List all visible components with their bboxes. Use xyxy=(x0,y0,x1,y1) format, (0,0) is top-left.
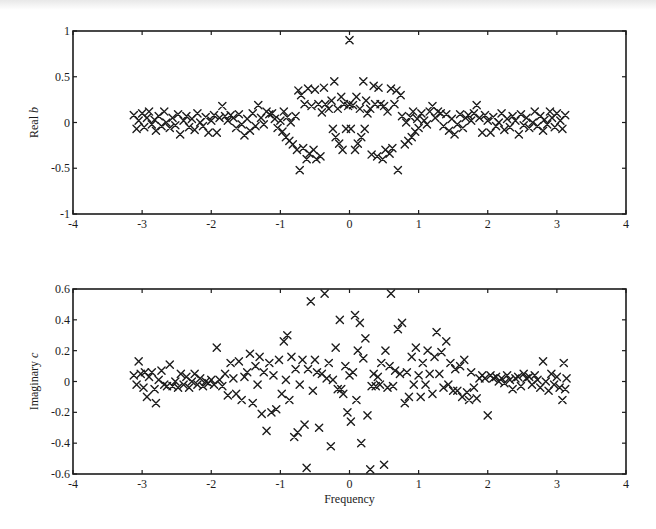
x-marker xyxy=(351,312,358,319)
x-marker xyxy=(289,141,296,148)
x-marker xyxy=(205,129,212,136)
x-marker xyxy=(426,370,433,377)
x-marker xyxy=(311,86,318,93)
x-marker xyxy=(423,121,430,128)
x-marker xyxy=(360,78,367,85)
x-marker xyxy=(135,358,142,365)
x-marker xyxy=(424,347,431,354)
x-marker xyxy=(277,117,284,124)
x-marker xyxy=(433,329,440,336)
y-axis-label: Imaginary c xyxy=(27,352,41,410)
x-tick-label: 4 xyxy=(623,477,629,491)
x-marker xyxy=(346,37,353,44)
x-marker xyxy=(559,396,566,403)
x-marker xyxy=(260,121,267,128)
x-marker xyxy=(304,85,311,92)
x-marker xyxy=(325,359,332,366)
x-marker xyxy=(397,91,404,98)
x-tick-label: 2 xyxy=(485,477,491,491)
x-marker xyxy=(484,412,491,419)
y-tick-label: -0.4 xyxy=(51,436,70,450)
x-marker xyxy=(143,114,150,121)
x-marker xyxy=(238,396,245,403)
x-marker xyxy=(310,146,317,153)
x-marker xyxy=(329,125,336,132)
x-marker xyxy=(353,93,360,100)
x-marker xyxy=(408,353,415,360)
x-tick-label: -2 xyxy=(206,477,216,491)
y-tick-label: -0.5 xyxy=(51,161,70,175)
x-marker xyxy=(447,359,454,366)
x-marker xyxy=(553,110,560,117)
x-marker xyxy=(320,84,327,91)
x-marker xyxy=(249,399,256,406)
x-marker xyxy=(454,387,461,394)
x-marker xyxy=(133,125,140,132)
x-marker xyxy=(318,109,325,116)
x-marker xyxy=(288,353,295,360)
x-marker xyxy=(422,381,429,388)
x-tick-label: 1 xyxy=(416,217,422,231)
x-marker xyxy=(309,387,316,394)
x-marker xyxy=(194,110,201,117)
x-marker xyxy=(495,119,502,126)
x-marker xyxy=(292,366,299,373)
x-marker xyxy=(315,101,322,108)
x-marker xyxy=(303,464,310,471)
x-marker xyxy=(419,359,426,366)
y-tick-label: 0 xyxy=(64,116,70,130)
x-marker xyxy=(436,370,443,377)
x-marker xyxy=(356,105,363,112)
x-marker xyxy=(394,166,401,173)
x-marker xyxy=(370,370,377,377)
x-marker xyxy=(415,124,422,131)
x-marker xyxy=(562,386,569,393)
x-marker xyxy=(133,381,140,388)
x-marker xyxy=(293,146,300,153)
x-marker xyxy=(479,129,486,136)
x-marker xyxy=(443,338,450,345)
x-marker xyxy=(473,102,480,109)
x-marker xyxy=(282,376,289,383)
x-marker xyxy=(344,409,351,416)
x-marker xyxy=(562,112,569,119)
x-tick-label: -1 xyxy=(275,217,285,231)
x-marker xyxy=(367,466,374,473)
x-marker xyxy=(331,78,338,85)
x-marker xyxy=(299,356,306,363)
x-marker xyxy=(539,358,546,365)
x-marker xyxy=(151,386,158,393)
x-marker xyxy=(560,359,567,366)
x-marker xyxy=(304,366,311,373)
data-markers xyxy=(130,37,569,174)
x-marker xyxy=(351,146,358,153)
x-marker xyxy=(378,359,385,366)
x-marker xyxy=(278,390,285,397)
x-marker xyxy=(362,335,369,342)
x-marker xyxy=(334,105,341,112)
x-marker xyxy=(473,395,480,402)
x-marker xyxy=(364,412,371,419)
x-marker xyxy=(347,418,354,425)
y-axis-label: Real b xyxy=(27,107,41,138)
data-markers xyxy=(130,290,570,473)
x-marker xyxy=(468,369,475,376)
x-marker xyxy=(403,369,410,376)
x-marker xyxy=(255,102,262,109)
plot-frame xyxy=(73,31,626,214)
x-marker xyxy=(249,110,256,117)
figure: -4-3-2-101234-1-0.500.51Real b-4-3-2-101… xyxy=(0,0,656,529)
x-tick-label: -2 xyxy=(206,217,216,231)
x-marker xyxy=(313,156,320,163)
x-marker xyxy=(391,101,398,108)
x-marker xyxy=(246,350,253,357)
x-marker xyxy=(294,429,301,436)
x-marker xyxy=(362,97,369,104)
y-tick-label: 1 xyxy=(64,24,70,38)
x-marker xyxy=(354,347,361,354)
x-marker xyxy=(470,384,477,391)
x-marker xyxy=(417,393,424,400)
x-marker xyxy=(431,353,438,360)
x-marker xyxy=(275,356,282,363)
x-marker xyxy=(387,290,394,297)
